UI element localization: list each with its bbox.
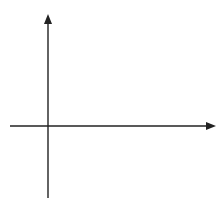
y-axis-arrow-icon bbox=[44, 14, 52, 24]
axes bbox=[10, 14, 216, 198]
coordinate-grid bbox=[0, 0, 224, 207]
x-axis-arrow-icon bbox=[206, 122, 216, 130]
